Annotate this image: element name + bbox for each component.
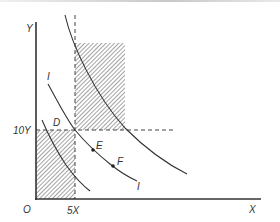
lower-shaded-rectangle — [36, 130, 75, 199]
curve-label-lower-right: I — [137, 181, 140, 192]
upper-shaded-rectangle — [75, 43, 125, 130]
point-e-marker — [91, 148, 95, 152]
y-axis-label: Y — [26, 23, 34, 34]
point-e-label: E — [96, 140, 103, 151]
point-f-marker — [111, 164, 115, 168]
point-d-label: D — [53, 117, 60, 128]
diagram-canvas: Y X O 10Y 5X D E F I I — [0, 0, 280, 222]
origin-label: O — [23, 204, 31, 215]
x-tick-5x-label: 5X — [67, 205, 80, 216]
point-f-label: F — [117, 156, 124, 167]
y-tick-10y-label: 10Y — [13, 125, 32, 136]
x-axis-label: X — [248, 204, 256, 215]
curve-label-upper-left: I — [47, 71, 50, 82]
